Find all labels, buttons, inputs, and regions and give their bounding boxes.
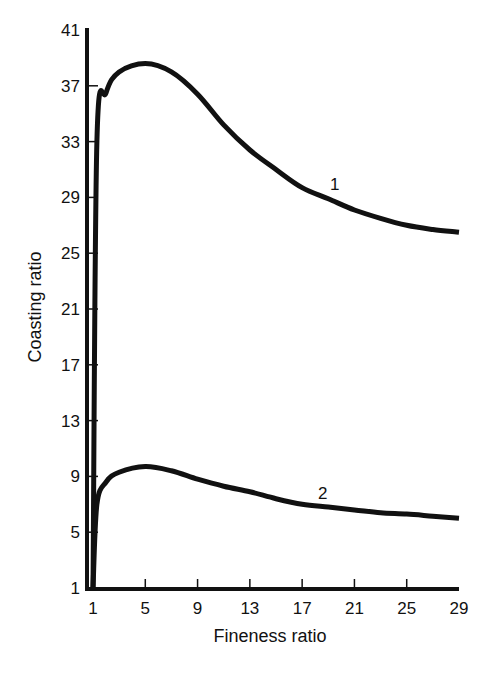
curve-2-label: 2 [318, 484, 327, 503]
ticks: 15913172125291591317212529333741 [61, 21, 468, 618]
y-tick-label: 9 [71, 467, 80, 486]
y-tick-label: 21 [61, 300, 80, 319]
axes [85, 28, 459, 591]
y-tick-label: 1 [71, 579, 80, 598]
curves [93, 64, 459, 589]
y-tick-label: 25 [61, 244, 80, 263]
x-tick-label: 9 [193, 599, 202, 618]
y-tick-label: 5 [71, 523, 80, 542]
curve-1-label: 1 [330, 175, 339, 194]
x-axis-title: Fineness ratio [213, 626, 326, 646]
y-tick-label: 17 [61, 356, 80, 375]
y-axis-title: Coasting ratio [25, 251, 45, 362]
y-tick-label: 33 [61, 133, 80, 152]
x-tick-label: 5 [141, 599, 150, 618]
x-tick-label: 1 [88, 599, 97, 618]
curve-2 [93, 467, 459, 588]
y-tick-label: 41 [61, 21, 80, 40]
x-tick-label: 25 [397, 599, 416, 618]
chart: 15913172125291591317212529333741 1 2 Fin… [0, 0, 494, 675]
x-tick-label: 13 [240, 599, 259, 618]
x-tick-label: 29 [450, 599, 469, 618]
y-tick-label: 29 [61, 188, 80, 207]
curve-1 [93, 64, 459, 589]
x-tick-label: 21 [345, 599, 364, 618]
y-tick-label: 13 [61, 412, 80, 431]
x-tick-label: 17 [293, 599, 312, 618]
y-tick-label: 37 [61, 77, 80, 96]
